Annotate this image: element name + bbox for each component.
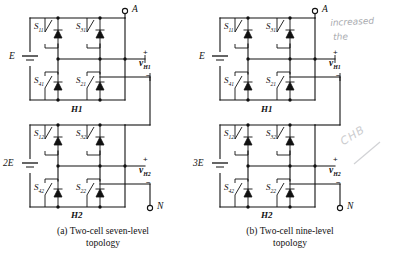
caption-a-line2: topology <box>18 238 188 250</box>
cell-label-a-h1: H1 <box>71 105 83 114</box>
source-label-a-h1: E <box>9 52 15 62</box>
switch-label-a-h1-s11: S11 <box>34 22 44 33</box>
switch-label-b-h2-s12: S12 <box>224 129 234 140</box>
switch-label-a-h2-s12: S12 <box>34 129 44 140</box>
voltage-label-b-h1: vH1 <box>329 59 341 71</box>
terminal-label-b-bottom: N <box>347 202 353 212</box>
voltage-label-a-h2: vH2 <box>139 166 151 178</box>
cell-label-b-h2: H2 <box>261 211 273 220</box>
circuit-panel-b: S11 S31 S41 S21 S12 S32 S42 S22 E 3E H1 … <box>190 0 390 220</box>
caption-a-label: (a) <box>57 226 68 236</box>
switch-label-a-h1-s41: S41 <box>34 76 44 87</box>
caption-panel-b: (b) Two-cell nine-level topology <box>205 226 375 250</box>
caption-panel-a: (a) Two-cell seven-level topology <box>18 226 188 250</box>
caption-a-line1: Two-cell seven-level <box>70 226 149 236</box>
switch-label-a-h2-s32: S32 <box>76 129 86 140</box>
caption-b-line2: topology <box>205 238 375 250</box>
switch-label-b-h1-s11: S11 <box>224 22 234 33</box>
polarity-plus-a-h2: + <box>143 156 148 164</box>
switch-label-a-h1-s31: S31 <box>76 22 86 33</box>
voltage-label-b-h2: vH2 <box>329 166 341 178</box>
caption-b-line1: Two-cell nine-level <box>260 226 334 236</box>
switch-label-b-h2-s42: S42 <box>224 183 234 194</box>
polarity-minus-b-h1: − <box>336 72 341 80</box>
circuit-schematic-a <box>0 0 200 220</box>
circuit-schematic-b <box>190 0 390 220</box>
polarity-plus-b-h1: + <box>333 49 338 57</box>
switch-label-b-h1-s21: S21 <box>266 76 276 87</box>
switch-label-a-h2-s42: S42 <box>34 183 44 194</box>
source-label-b-h1: E <box>199 52 205 62</box>
terminal-label-a-top: A <box>132 5 138 15</box>
handwritten-note-the: the <box>333 31 348 42</box>
switch-label-b-h2-s32: S32 <box>266 129 276 140</box>
switch-label-b-h1-s41: S41 <box>224 76 234 87</box>
source-label-b-h2: 3E <box>193 159 204 169</box>
terminal-label-a-bottom: N <box>157 202 163 212</box>
terminal-label-b-top: A <box>322 5 328 15</box>
polarity-plus-a-h1: + <box>143 49 148 57</box>
polarity-minus-a-h2: − <box>146 179 151 187</box>
switch-label-b-h2-s22: S22 <box>266 183 276 194</box>
handwritten-slash-mark <box>352 140 382 166</box>
cell-label-a-h2: H2 <box>71 211 83 220</box>
polarity-plus-b-h2: + <box>333 156 338 164</box>
cell-label-b-h1: H1 <box>261 105 273 114</box>
polarity-minus-b-h2: − <box>336 179 341 187</box>
caption-b-label: (b) <box>246 226 257 236</box>
voltage-label-a-h1: vH1 <box>139 59 151 71</box>
figure-canvas: S11 S31 S41 S21 S12 S32 S42 S22 E 2E H1 … <box>0 0 405 269</box>
switch-label-b-h1-s31: S31 <box>266 22 276 33</box>
switch-label-a-h2-s22: S22 <box>76 183 86 194</box>
circuit-panel-a: S11 S31 S41 S21 S12 S32 S42 S22 E 2E H1 … <box>0 0 200 220</box>
polarity-minus-a-h1: − <box>146 72 151 80</box>
source-label-a-h2: 2E <box>3 159 14 169</box>
switch-label-a-h1-s21: S21 <box>76 76 86 87</box>
